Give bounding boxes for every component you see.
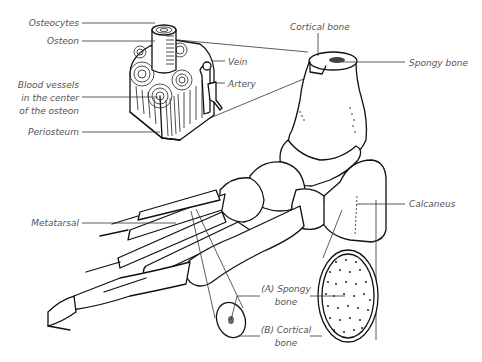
label-cortical-b-line1: (B) Cortical [256, 324, 316, 336]
label-spongy-bone-top: Spongy bone [409, 57, 468, 69]
label-cortical-b-line2: bone [256, 337, 316, 349]
label-osteon: Osteon [0, 35, 79, 47]
zoom-line-bottom [210, 78, 306, 118]
label-blood-vessels-line3: of the osteon [0, 105, 79, 117]
label-cortical-bone-top: Cortical bone [290, 21, 350, 33]
osteon-block-illustration [130, 25, 222, 140]
label-periosteum: Periosteum [0, 126, 79, 138]
label-blood-vessels-line2: in the center [0, 92, 79, 104]
label-metatarsal: Metatarsal [0, 217, 79, 229]
label-spongy-a-line2: bone [258, 296, 314, 308]
foot-bone-diagram: Osteocytes Osteon Vein Artery Blood vess… [0, 0, 482, 362]
label-blood-vessels-line1: Blood vessels [0, 79, 79, 91]
label-artery: Artery [228, 78, 256, 90]
label-calcaneus: Calcaneus [409, 198, 455, 210]
label-spongy-a-line1: (A) Spongy [258, 283, 314, 295]
label-osteocytes: Osteocytes [0, 17, 79, 29]
label-vein: Vein [228, 56, 247, 68]
